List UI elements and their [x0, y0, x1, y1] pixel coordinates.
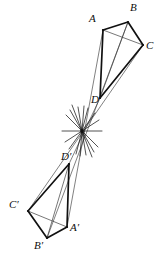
- vertex-dot-cprime: [27, 210, 29, 212]
- vertex-label-d: D: [91, 94, 99, 105]
- vertex-dot-aprime: [66, 226, 68, 228]
- polygon-aprime-bprime-cprime-dprime: [28, 164, 69, 238]
- correspondence-line-c-cprime: [28, 45, 143, 211]
- vertex-label-cprime: C′: [9, 199, 19, 210]
- vertex-dot-d: [99, 97, 101, 99]
- vertex-dot-bprime: [46, 237, 48, 239]
- diagonal-ac: [103, 30, 143, 45]
- vertex-dot-a: [102, 29, 104, 31]
- vertex-dot-c: [142, 44, 144, 46]
- vertex-dot-b: [127, 21, 129, 23]
- diagram-canvas: [0, 0, 162, 258]
- geometry-figure: A B C D A′ B′ C′ D′: [0, 0, 162, 258]
- center-of-symmetry-point: [80, 129, 84, 133]
- vertex-label-a: A: [89, 13, 96, 24]
- vertex-label-c: C: [146, 40, 153, 51]
- polygon-abcd: [100, 22, 143, 98]
- vertex-label-b: B: [130, 2, 137, 13]
- correspondence-line-group: [28, 22, 143, 238]
- vertex-label-dprime: D′: [61, 151, 71, 162]
- vertex-dot-group: [27, 21, 144, 239]
- vertex-label-bprime: B′: [34, 240, 43, 251]
- vertex-dot-dprime: [68, 163, 70, 165]
- vertex-label-aprime: A′: [70, 222, 79, 233]
- diagonal-group: [28, 22, 143, 238]
